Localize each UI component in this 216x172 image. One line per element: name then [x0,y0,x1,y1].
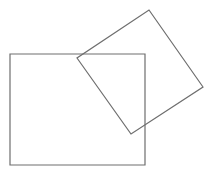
tilted-square [77,10,203,134]
diagram-canvas [0,0,216,172]
upright-rectangle [10,54,145,165]
